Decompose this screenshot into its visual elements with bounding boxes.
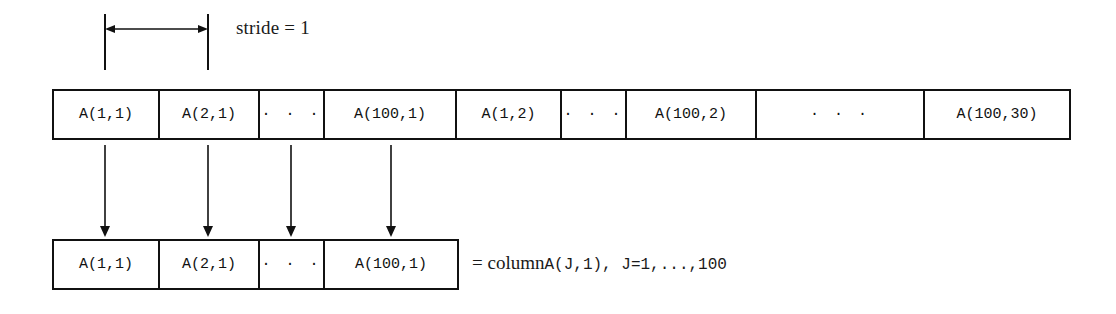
mapping-arrow-head — [386, 226, 396, 237]
caption-expression: A(J,1), J=1,...,100 — [544, 256, 726, 274]
memory-ellipsis-cell: · · · — [562, 91, 627, 138]
memory-cell: A(100,30) — [925, 91, 1069, 138]
memory-cell: A(100,2) — [627, 91, 757, 138]
extracted-column-row: A(1,1)A(2,1)· · ·A(100,1) — [52, 239, 459, 290]
stride-diagram: stride = 1 A(1,1)A(2,1)· · ·A(100,1)A(1,… — [0, 0, 1116, 314]
mapping-arrow-head — [203, 226, 213, 237]
memory-cell: A(2,1) — [160, 91, 260, 138]
caption-prefix: = column — [472, 252, 544, 274]
memory-cell: A(100,1) — [325, 91, 457, 138]
linear-memory-row: A(1,1)A(2,1)· · ·A(100,1)A(1,2)· · ·A(10… — [52, 89, 1071, 140]
column-caption: = column A(J,1), J=1,...,100 — [472, 252, 727, 274]
stride-double-arrow — [105, 22, 208, 36]
memory-cell: A(1,2) — [457, 91, 562, 138]
stride-label: stride = 1 — [236, 17, 310, 39]
column-ellipsis-cell: · · · — [260, 241, 325, 288]
memory-ellipsis-cell: · · · — [260, 91, 325, 138]
column-cell: A(1,1) — [54, 241, 160, 288]
mapping-arrow-head — [286, 226, 296, 237]
memory-cell: A(1,1) — [54, 91, 160, 138]
column-cell: A(100,1) — [325, 241, 457, 288]
memory-ellipsis-cell: · · · — [757, 91, 925, 138]
mapping-arrow-head — [100, 226, 110, 237]
column-cell: A(2,1) — [160, 241, 260, 288]
